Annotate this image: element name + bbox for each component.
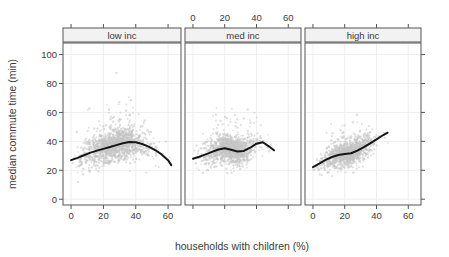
data-point: [249, 159, 251, 161]
data-point: [352, 171, 354, 173]
data-point: [130, 156, 132, 158]
data-point: [132, 144, 134, 146]
data-point: [341, 168, 343, 170]
data-point: [77, 172, 79, 174]
data-point: [363, 161, 365, 163]
data-point: [92, 139, 95, 142]
data-point: [231, 155, 233, 157]
y-axis-tick-label: 100: [41, 49, 57, 60]
data-point: [210, 155, 212, 157]
x-axis-tick-label: 0: [68, 210, 73, 221]
data-point: [129, 162, 132, 165]
data-point: [195, 144, 197, 146]
data-point: [212, 115, 214, 117]
data-point: [370, 155, 372, 157]
data-point: [332, 161, 334, 163]
data-point: [98, 155, 100, 157]
data-point: [90, 161, 92, 163]
data-point: [109, 139, 111, 141]
data-point: [206, 145, 208, 147]
data-point: [239, 168, 242, 171]
data-point: [226, 117, 228, 119]
data-point: [129, 170, 131, 172]
x-axis-tick-label-top: 0: [190, 12, 195, 23]
data-point: [229, 121, 231, 123]
data-point: [369, 131, 371, 133]
data-point: [250, 135, 252, 137]
data-point: [123, 158, 125, 160]
data-point: [138, 136, 140, 138]
data-point: [88, 167, 90, 169]
data-point: [123, 134, 125, 136]
data-point: [118, 159, 120, 161]
data-point: [331, 135, 333, 137]
data-point: [339, 129, 342, 132]
data-point: [237, 158, 239, 160]
data-point: [350, 162, 352, 164]
data-point: [356, 142, 358, 144]
data-point: [240, 156, 243, 159]
y-axis-tick-label: 20: [46, 165, 57, 176]
data-point: [101, 161, 103, 163]
data-point: [108, 163, 110, 165]
data-point: [139, 129, 141, 131]
data-point: [362, 143, 364, 145]
data-point: [213, 128, 215, 130]
data-point: [356, 139, 358, 141]
data-point: [330, 153, 332, 155]
data-point: [83, 168, 85, 170]
data-point: [142, 152, 144, 154]
data-point: [230, 170, 232, 172]
data-point: [229, 157, 231, 159]
data-point: [334, 141, 336, 143]
data-point: [135, 158, 137, 160]
data-point: [361, 123, 363, 125]
data-point: [354, 136, 356, 138]
data-point: [84, 151, 86, 153]
data-point: [236, 166, 238, 168]
data-point: [341, 156, 343, 158]
data-point: [89, 158, 91, 160]
data-point: [138, 138, 140, 140]
data-point: [236, 165, 238, 167]
data-point: [126, 149, 128, 151]
data-point: [211, 163, 213, 165]
data-point: [365, 155, 367, 157]
data-point: [351, 165, 353, 167]
data-point: [215, 142, 217, 144]
data-point: [76, 131, 78, 133]
panel-strip-label: low inc: [107, 30, 136, 41]
data-point: [236, 154, 238, 156]
data-point: [106, 104, 108, 106]
data-point: [356, 114, 358, 116]
data-point: [339, 160, 341, 162]
data-point: [99, 124, 101, 126]
data-point: [235, 160, 237, 162]
data-point: [237, 134, 239, 136]
data-point: [131, 131, 133, 133]
data-point: [340, 141, 342, 143]
data-point: [114, 154, 116, 156]
data-point: [339, 147, 341, 149]
data-point: [270, 143, 272, 145]
data-point: [88, 148, 91, 151]
data-point: [85, 161, 87, 163]
data-point: [220, 156, 222, 158]
data-point: [108, 160, 111, 163]
data-point: [103, 165, 105, 167]
data-point: [347, 165, 349, 167]
data-point: [240, 135, 242, 137]
data-point: [362, 157, 364, 159]
data-point: [343, 166, 346, 169]
data-point: [169, 156, 171, 158]
data-point: [201, 160, 203, 162]
data-point: [219, 133, 221, 135]
data-point: [99, 130, 101, 132]
data-point: [324, 155, 326, 157]
data-point: [236, 144, 238, 146]
data-point: [231, 108, 233, 110]
data-point: [215, 120, 217, 122]
data-point: [127, 132, 129, 134]
data-point: [106, 161, 108, 163]
data-point: [330, 143, 332, 145]
